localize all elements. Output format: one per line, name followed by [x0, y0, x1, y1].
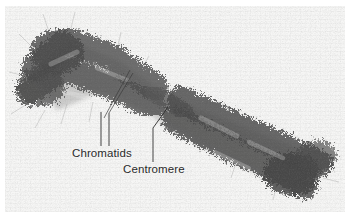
label-centromere: Centromere	[123, 163, 185, 176]
label-chromatids: Chromatids	[72, 147, 132, 160]
chromosome-figure: Chromatids Centromere	[0, 0, 346, 222]
film-grain	[5, 6, 345, 212]
chromosome-image	[5, 6, 345, 212]
micrograph-plate	[5, 6, 345, 212]
